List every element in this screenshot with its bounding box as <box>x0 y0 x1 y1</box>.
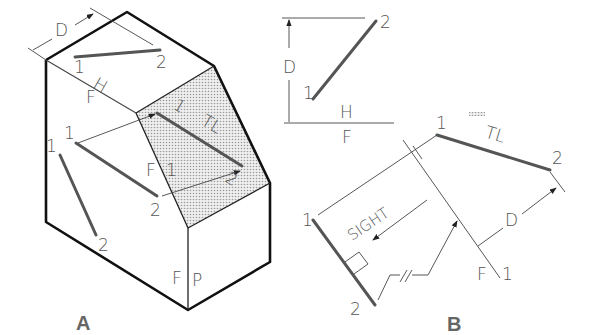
label-front-point-1: 1 <box>64 123 75 143</box>
label-side-point-2: 2 <box>98 235 109 255</box>
dim-extension-left <box>28 48 46 60</box>
caption-b: B <box>447 313 461 335</box>
stipple-mark <box>469 112 485 116</box>
b-dim-d-aux-lower <box>478 228 503 246</box>
label-b-front-point-1: 1 <box>303 83 314 103</box>
b-dim-d-aux-upper <box>522 188 556 214</box>
label-side-point-1: 1 <box>46 136 57 156</box>
label-fold-fp-f: F <box>172 268 182 288</box>
label-b-aux-point-1: 1 <box>436 113 447 133</box>
b-front-view-line-1-2 <box>313 21 376 99</box>
label-fold-fp-p: P <box>192 270 202 290</box>
label-b-dim-d-top: D <box>283 57 296 77</box>
label-top-point-2: 2 <box>156 52 167 72</box>
descriptive-geometry-figure: D 1 2 H F 1 2 1 2 1 2 TL F 1 F P A <box>0 0 600 335</box>
b-fold-line-f-1 <box>403 140 500 278</box>
label-aux-fold-f: F <box>146 160 156 180</box>
label-b-point-view-1: 1 <box>302 210 313 230</box>
front-view-line-1-2 <box>76 143 157 196</box>
label-front-point-2: 2 <box>150 200 161 220</box>
dim-extension-right <box>90 8 153 45</box>
side-view-line-1-2 <box>60 155 96 235</box>
dim-line-d-a <box>33 39 52 50</box>
label-b-aux-fold-1: 1 <box>502 264 513 284</box>
label-b-tl: TL <box>483 122 508 147</box>
caption-a: A <box>76 312 90 334</box>
dim-line-d-b <box>75 14 93 25</box>
label-sight: SIGHT <box>344 204 392 245</box>
top-view-line-1-2 <box>75 50 160 57</box>
label-b-aux-fold-f: F <box>477 264 487 284</box>
b-dim-extension <box>550 172 565 192</box>
transfer-distance-line <box>378 275 400 300</box>
panel-a-prism: D 1 2 H F 1 2 1 2 1 2 TL F 1 F P A <box>28 8 270 334</box>
label-b-fold-h: H <box>340 102 353 122</box>
label-b-point-view-2: 2 <box>350 299 361 319</box>
label-b-dim-d-aux: D <box>505 210 518 230</box>
label-top-point-1: 1 <box>74 57 85 77</box>
transfer-distance-line-2 <box>412 221 457 275</box>
label-dim-d: D <box>55 20 68 40</box>
label-fold-f: F <box>86 87 96 107</box>
panel-b-construction: D 1 2 H F 1 TL 2 F 1 D 1 2 SI <box>282 12 565 335</box>
label-b-aux-point-2: 2 <box>552 148 563 168</box>
label-b-top-point-2: 2 <box>380 12 391 32</box>
label-b-fold-f: F <box>342 127 352 147</box>
label-aux-fold-1: 1 <box>166 160 177 180</box>
b-projector-line <box>318 135 437 215</box>
